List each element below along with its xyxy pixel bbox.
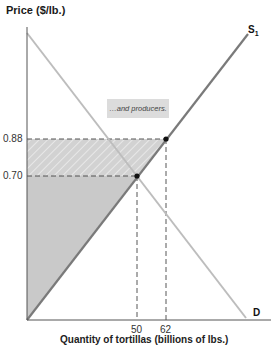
y-axis-label: Price ($/lb.) xyxy=(6,4,65,16)
y-tick-070: 0.70 xyxy=(3,170,22,181)
producer-surplus-gain xyxy=(27,139,166,176)
equilibrium-point-1 xyxy=(134,173,139,178)
y-tick-088: 0.88 xyxy=(3,133,22,144)
annotation-box: …and producers. xyxy=(107,99,169,118)
equilibrium-point-2 xyxy=(163,136,168,141)
x-axis-label: Quantity of tortillas (billions of lbs.) xyxy=(60,334,228,345)
demand-label: D xyxy=(253,307,260,318)
supply-label: S1 xyxy=(248,24,259,37)
